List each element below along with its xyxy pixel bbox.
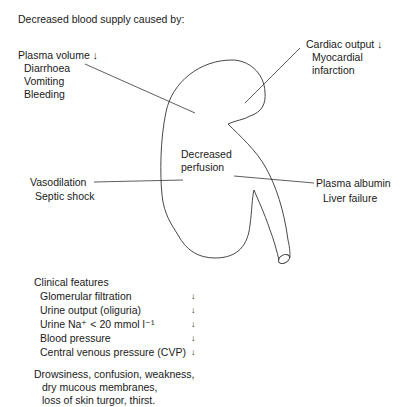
- pointer-plasma-volume: [85, 64, 195, 113]
- down-arrow-icon: ↓: [191, 304, 196, 317]
- down-arrow-icon: ↓: [191, 290, 196, 303]
- down-arrow-icon: ↓: [191, 318, 196, 331]
- down-arrow-icon: ↓: [93, 48, 98, 62]
- clinical-feature: Blood pressure: [40, 332, 111, 345]
- cause-plasma-volume: Plasma volume ↓: [18, 49, 98, 62]
- center-label-line2: perfusion: [181, 161, 224, 174]
- clinical-feature: Urine Na⁺ < 20 mmol l⁻¹: [40, 318, 154, 331]
- kidney-hilum-edge: [228, 116, 290, 258]
- symptom-line: loss of skin turgor, thirst.: [42, 394, 155, 407]
- down-arrow-icon: ↓: [377, 37, 382, 51]
- center-label-line1: Decreased: [181, 148, 232, 161]
- cause-plasma-albumin: Plasma albumin: [316, 177, 391, 190]
- cause-label: Plasma volume: [18, 49, 90, 61]
- pointer-cardiac-output: [245, 48, 300, 103]
- clinical-feature: Central venous pressure (CVP): [40, 346, 186, 359]
- symptom-line: Drowsiness, confusion, weakness,: [34, 368, 195, 381]
- cause-item: Septic shock: [35, 190, 95, 203]
- clinical-feature: Urine output (oliguria): [40, 304, 141, 317]
- diagram-title: Decreased blood supply caused by:: [18, 13, 184, 26]
- clinical-feature: Glomerular filtration: [40, 290, 132, 303]
- cause-item: Vomiting: [24, 75, 64, 88]
- ureter-opening: [277, 253, 291, 266]
- down-arrow-icon: ↓: [191, 346, 196, 359]
- cause-item: Diarrhoea: [24, 62, 70, 75]
- cause-item: Bleeding: [24, 88, 65, 101]
- cause-cardiac-output: Cardiac output ↓: [306, 38, 382, 51]
- cause-label: Cardiac output: [306, 38, 374, 50]
- down-arrow-icon: ↓: [191, 332, 196, 345]
- cause-item: infarction: [312, 64, 355, 77]
- cause-item: Myocardial: [312, 51, 363, 64]
- pointer-vasodilation: [94, 180, 183, 182]
- symptom-line: dry mucous membranes,: [42, 381, 158, 394]
- cause-item: Liver failure: [323, 192, 377, 205]
- cause-vasodilation: Vasodilation: [30, 176, 86, 189]
- clinical-heading: Clinical features: [34, 276, 109, 289]
- pointer-plasma-albumin: [234, 176, 314, 183]
